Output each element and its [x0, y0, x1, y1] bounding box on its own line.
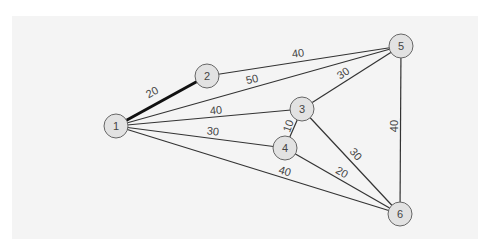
network-graph: 2040504030301030204040 123456	[0, 0, 490, 251]
node-label: 5	[398, 40, 404, 52]
edge-weight-label: 10	[280, 118, 295, 134]
edge-1-6	[116, 126, 400, 214]
node-label: 4	[282, 142, 288, 154]
edge-weight-label: 20	[144, 84, 161, 100]
node-4: 4	[273, 136, 297, 160]
edge-weight-label: 30	[206, 124, 219, 137]
node-3: 3	[290, 97, 314, 121]
edge-weight-label: 40	[388, 120, 400, 132]
edge-3-5	[302, 46, 401, 109]
node-label: 2	[204, 70, 210, 82]
node-5: 5	[389, 34, 413, 58]
edges-layer	[116, 46, 401, 214]
node-6: 6	[388, 202, 412, 226]
node-2: 2	[195, 64, 219, 88]
edge-1-4	[116, 126, 285, 148]
node-label: 3	[299, 103, 305, 115]
edge-5-6	[400, 46, 401, 214]
node-label: 1	[113, 120, 119, 132]
edge-weight-label: 40	[291, 46, 305, 60]
edge-2-5	[207, 46, 401, 76]
node-label: 6	[397, 208, 403, 220]
edge-weight-label: 40	[209, 103, 222, 116]
node-1: 1	[104, 114, 128, 138]
edge-1-5	[116, 46, 401, 126]
edge-4-6	[285, 148, 400, 214]
edge-weight-label: 50	[245, 72, 260, 87]
